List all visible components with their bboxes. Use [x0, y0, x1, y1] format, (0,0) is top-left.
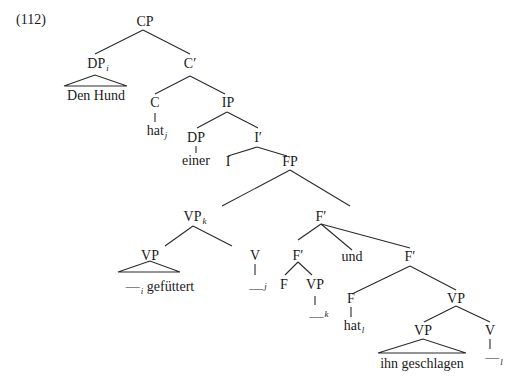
trace-j: —j — [249, 278, 267, 297]
node-cp: CP — [136, 14, 153, 30]
node-f-left: F — [280, 277, 288, 293]
node-dp-i: DPi — [87, 56, 108, 76]
node-c: C — [150, 95, 159, 111]
node-fp: FP — [282, 154, 298, 170]
node-v: V — [250, 248, 260, 264]
leaf-einer: einer — [182, 153, 210, 169]
node-i: I — [226, 154, 231, 170]
leaf-ihn-geschlagen: ihn geschlagen — [380, 356, 464, 372]
leaf-hat-l: hatl — [344, 318, 365, 338]
node-f-bar-top: F′ — [316, 209, 327, 225]
node-ip: IP — [222, 95, 234, 111]
node-i-bar: I′ — [254, 130, 262, 146]
node-vp-left: VP — [306, 277, 324, 293]
node-f-bar-right: F′ — [405, 249, 416, 265]
leaf-den-hund: Den Hund — [67, 88, 125, 104]
node-v-right: V — [485, 323, 495, 339]
leaf-hat-j: hatj — [147, 123, 168, 143]
trace-k: —k — [310, 306, 329, 325]
trace-l: —l — [485, 350, 503, 370]
syntax-tree-edges — [0, 0, 518, 389]
conjunction-und: und — [342, 249, 363, 265]
node-c-bar: C′ — [184, 56, 196, 72]
node-vp-inner: VP — [141, 248, 159, 264]
node-vp-right: VP — [447, 291, 465, 307]
node-dp: DP — [187, 130, 205, 146]
node-vp-k: VPk — [184, 209, 207, 229]
leaf-gefuttert: —i gefüttert — [126, 279, 194, 299]
node-f-bar-left: F′ — [293, 248, 304, 264]
node-f-right: F — [347, 291, 355, 307]
node-vp-right-inner: VP — [414, 323, 432, 339]
